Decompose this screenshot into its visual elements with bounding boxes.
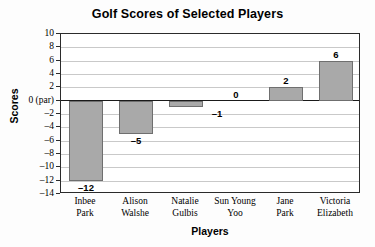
y-tick-mark [56,113,60,114]
x-category-line: Victoria [317,196,353,208]
bar-value-label: –1 [212,108,223,119]
x-category-line: Alison [121,196,149,208]
y-tick-label: –10 [0,161,54,171]
y-tick-label: –8 [0,148,54,158]
y-tick-label: –4 [0,121,54,131]
x-category-line: Walshe [121,208,149,220]
x-category-line: Sun Young [214,196,256,208]
y-tick-mark [56,73,60,74]
y-tick-label: 2 [0,81,54,91]
y-tick-label: 6 [0,55,54,65]
y-tick-mark [56,86,60,87]
x-category-label: AlisonWalshe [121,196,149,219]
bar-value-label: 6 [333,49,338,60]
x-category-line: Elizabeth [317,208,353,220]
x-category-line: Yoo [214,208,256,220]
y-tick-mark [56,193,60,194]
y-tick-label: 4 [0,68,54,78]
y-tick-mark [56,126,60,127]
x-category-line: Jane [276,196,293,208]
y-tick-mark [56,60,60,61]
y-tick-label: –6 [0,135,54,145]
y-tick-label: 0 (par) [0,95,54,105]
y-tick-mark [56,166,60,167]
chart-page: Golf Scores of Selected Players Scores –… [0,0,375,247]
y-tick-mark [56,153,60,154]
value-labels: –12–5–1026 [61,34,359,192]
chart-title: Golf Scores of Selected Players [0,7,375,21]
y-tick-mark [56,140,60,141]
bar-value-label: 2 [283,75,288,86]
x-category-label: JanePark [276,196,293,219]
y-tick-mark [56,100,60,101]
y-tick-label: –12 [0,175,54,185]
x-category-line: Natalie [171,196,198,208]
x-category-label: InbeePark [74,196,95,219]
x-category-label: NatalieGulbis [171,196,198,219]
y-tick-label: –2 [0,108,54,118]
x-category-label: Sun YoungYoo [214,196,256,219]
x-category-line: Park [74,208,95,220]
y-tick-mark [56,46,60,47]
x-category-line: Park [276,208,293,220]
y-tick-mark [56,33,60,34]
x-axis-title: Players [60,225,360,237]
y-tick-label: 10 [0,28,54,38]
y-tick-mark [56,180,60,181]
plot-area: –12–5–1026 [60,33,360,193]
bar-value-label: –5 [131,135,142,146]
x-category-label: VictoriaElizabeth [317,196,353,219]
bar-value-label: 0 [233,89,238,100]
x-category-line: Gulbis [171,208,198,220]
bar-value-label: –12 [78,182,94,193]
x-category-line: Inbee [74,196,95,208]
y-tick-label: –14 [0,188,54,198]
y-tick-label: 8 [0,41,54,51]
